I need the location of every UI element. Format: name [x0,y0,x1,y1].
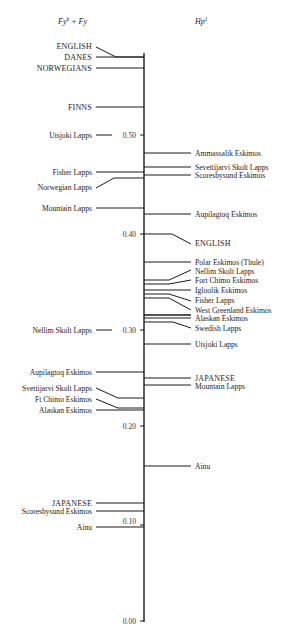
left-label: Fisher Lapps [53,168,92,177]
right-label: Ammassalik Eskimos [195,149,261,158]
right-label: Utsjoki Lapps [195,340,238,349]
left-label: Utsjoki Lapps [49,131,92,140]
svg-text:0.50: 0.50 [123,131,136,140]
svg-text:0.30: 0.30 [123,326,136,335]
right-label: Igloolik Eskimos [195,286,247,295]
svg-text:0.00: 0.00 [123,617,136,626]
svg-text:0.20: 0.20 [123,422,136,431]
left-label: DANES [64,53,92,62]
left-label: Aupilagtoq Eskimos [30,368,92,377]
right-label: Scoresbysund Eskimos [195,171,265,180]
left-series: ENGLISH DANES NORWEGIANS FINNS Utsjoki L… [22,42,144,532]
right-label: Polar Eskimos (Thule) [195,258,264,267]
frequency-ladder-chart: Fyb + Fy Hp1 0.50 0.40 0.30 0.20 0.10 0.… [0,0,296,635]
right-label: Mountain Lapps [195,382,245,391]
right-series: Ammassalik Eskimos Sevettijarvi Skolt La… [144,149,272,471]
left-label: FINNS [68,103,92,112]
left-label: Ainu [77,523,92,532]
right-label: Fort Chimo Eskimos [195,276,258,285]
right-label: Aupilagtoq Eskimos [195,210,257,219]
right-label: Alaskan Eskimos [195,314,248,323]
left-column-header: Fyb + Fy [57,16,87,26]
axis-ticks: 0.50 0.40 0.30 0.20 0.10 0.00 [123,131,144,626]
right-column-header: Hp1 [194,16,208,26]
right-label: Swedish Lapps [195,324,241,333]
left-label: Svettijarvi Skolt Lapps [22,384,92,393]
left-label: Ft Chimo Eskimos [35,395,92,404]
left-label: Norwegian Lapps [38,183,92,192]
left-label: ENGLISH [56,42,92,51]
right-label: Nellim Skolt Lapps [195,267,255,276]
right-label: Ainu [195,462,210,471]
svg-text:0.40: 0.40 [123,230,136,239]
left-label: Alaskan Eskimos [39,406,92,415]
right-label: Fisher Lapps [195,296,234,305]
svg-text:0.10: 0.10 [123,517,136,526]
left-label: Scoresbysund Eskimos [22,507,92,516]
left-label: Nellim Skolt Lapps [33,326,93,335]
left-label: NORWEGIANS [37,64,92,73]
left-label: Mountain Lapps [42,204,92,213]
right-label: ENGLISH [195,239,231,248]
